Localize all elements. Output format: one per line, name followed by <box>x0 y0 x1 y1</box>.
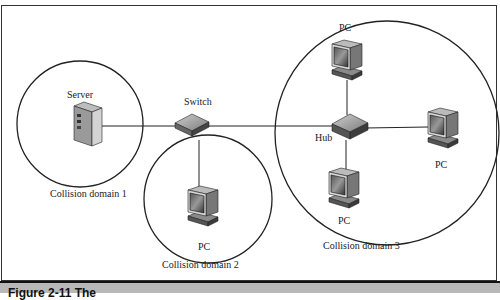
pc-label: PC <box>338 215 350 226</box>
pc-label: PC <box>339 22 351 33</box>
link-hub-pc-right <box>365 127 428 128</box>
pc-icon <box>329 168 359 208</box>
collision-domain-2-label: Collision domain 2 <box>162 259 239 270</box>
switch-label: Switch <box>184 96 212 107</box>
pc-icon <box>188 186 218 226</box>
server-icon <box>74 102 102 146</box>
pc-label: PC <box>198 241 210 252</box>
pc-icon <box>332 40 362 80</box>
figure-caption-bar: Figure 2-11 The <box>0 281 500 293</box>
figure-caption: Figure 2-11 The <box>8 286 96 300</box>
switch-icon <box>175 114 209 136</box>
collision-domain-3-circle <box>275 21 499 245</box>
hub-icon <box>332 114 368 139</box>
server-label: Server <box>67 89 93 100</box>
collision-domain-1-label: Collision domain 1 <box>50 188 127 199</box>
pc-label: PC <box>435 159 447 170</box>
hub-label: Hub <box>315 132 332 143</box>
pc-icon <box>428 108 458 148</box>
collision-domain-3-label: Collision domain 3 <box>323 240 400 251</box>
